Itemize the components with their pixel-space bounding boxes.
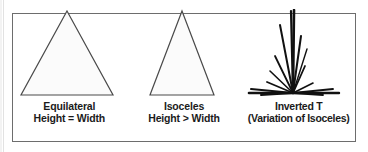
shape-area-isoceles (127, 13, 242, 101)
isoceles-triangle-shape (132, 9, 236, 101)
scan-artifact-edge (3, 0, 4, 152)
caption-line-1: Isoceles (148, 101, 220, 113)
panel-isoceles: Isoceles Height > Width (127, 13, 242, 142)
caption-inverted-t: Inverted T (Variation of Isoceles) (248, 101, 350, 124)
figure-root: Equilateral Height = Width Isoceles Heig… (0, 0, 368, 152)
caption-line-2: (Variation of Isoceles) (248, 113, 350, 125)
caption-line-1: Equilateral (34, 101, 106, 113)
panel-container: Equilateral Height = Width Isoceles Heig… (12, 13, 356, 142)
caption-equilateral: Equilateral Height = Width (34, 101, 106, 124)
scan-artifact-edge-outer (0, 0, 2, 152)
shape-area-equilateral (12, 13, 127, 101)
panel-inverted-t: Inverted T (Variation of Isoceles) (241, 13, 356, 142)
caption-line-1: Inverted T (248, 101, 350, 113)
equilateral-triangle-shape (17, 9, 121, 101)
caption-line-2: Height > Width (148, 113, 220, 125)
caption-isoceles: Isoceles Height > Width (148, 101, 220, 124)
panel-equilateral: Equilateral Height = Width (12, 13, 127, 142)
inverted-t-spatter-shape (247, 9, 351, 101)
shape-area-inverted-t (241, 13, 356, 101)
caption-line-2: Height = Width (34, 113, 106, 125)
